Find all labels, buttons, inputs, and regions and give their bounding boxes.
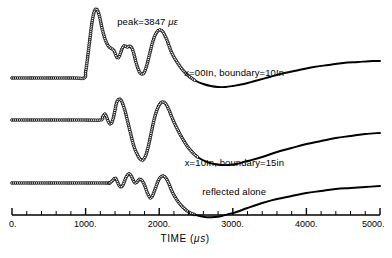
series-layer bbox=[11, 8, 380, 217]
series-markers bbox=[11, 98, 199, 162]
x-axis-title: TIME (μs) bbox=[160, 233, 209, 244]
x-tick-label: 5000. bbox=[362, 219, 385, 229]
x-tick-label: 1000. bbox=[74, 219, 97, 229]
x-tick-label: 0. bbox=[9, 219, 17, 229]
series-markers bbox=[11, 172, 196, 215]
series-line bbox=[12, 174, 380, 217]
chart-svg bbox=[0, 0, 392, 258]
x-tick-label: 3000. bbox=[221, 219, 244, 229]
peak-annotation: peak=3847 με bbox=[117, 16, 178, 27]
series-label-bottom: reflected alone bbox=[202, 186, 266, 197]
series-label-top: x=00In, boundary=10In bbox=[184, 67, 284, 78]
x-tick-label: 2000. bbox=[148, 219, 171, 229]
axis-layer bbox=[12, 208, 380, 215]
series-label-middle: x=10In, boundary=15in bbox=[185, 157, 284, 168]
x-tick-label: 4000. bbox=[295, 219, 318, 229]
data-point-marker bbox=[193, 79, 196, 82]
figure-container: peak=3847 με x=00In, boundary=10In x=10I… bbox=[0, 0, 392, 258]
